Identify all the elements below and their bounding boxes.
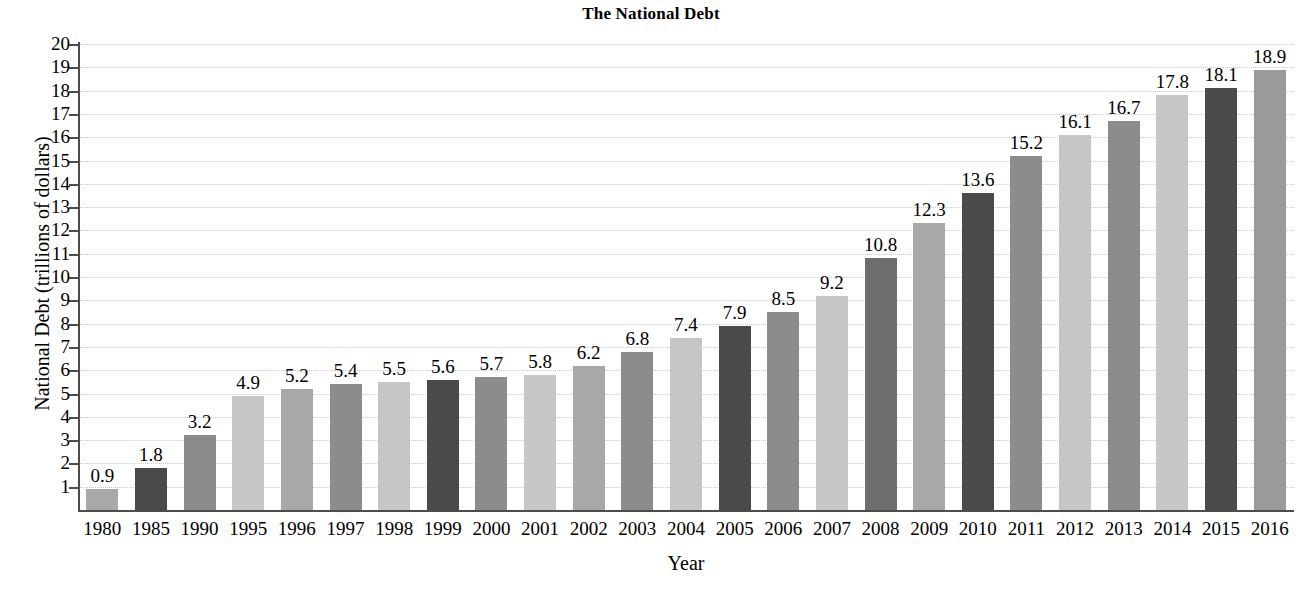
bar-value-label: 8.5 [759,289,808,308]
bar-value-label: 7.4 [662,315,711,334]
bar-value-label: 18.1 [1197,65,1246,84]
bar-value-label: 5.4 [321,361,370,380]
bar [865,258,897,510]
bar [1254,70,1286,510]
x-tick-label: 2013 [1099,519,1148,538]
x-tick-label: 1999 [418,519,467,538]
plot-area: 2019181716151413121110987654321 0.91.83.… [78,42,1294,512]
bar-value-label: 5.2 [273,366,322,385]
y-tick-label: 18 [30,81,70,100]
chart-title: The National Debt [0,4,1302,24]
x-tick-label: 1998 [370,519,419,538]
y-tick-label: 6 [30,360,70,379]
x-tick-label: 2002 [564,519,613,538]
y-tick-mark [69,324,78,326]
bar [86,489,118,510]
y-tick-label: 13 [30,197,70,216]
y-tick-mark [69,114,78,116]
bar [913,223,945,510]
bar-value-label: 7.9 [710,303,759,322]
y-tick-mark [69,347,78,349]
x-tick-label: 2004 [662,519,711,538]
bar-value-label: 16.7 [1099,98,1148,117]
y-tick-label: 1 [30,477,70,496]
x-tick-label: 2008 [856,519,905,538]
y-tick-label: 20 [30,34,70,53]
bar [232,396,264,510]
national-debt-bar-chart: The National Debt National Debt (trillio… [0,0,1302,592]
x-tick-label: 2011 [1002,519,1051,538]
y-tick-label: 5 [30,384,70,403]
x-tick-label: 1985 [127,519,176,538]
gridline [80,91,1294,92]
bar [1059,135,1091,510]
y-tick-mark [69,394,78,396]
bar [719,326,751,510]
y-tick-label: 8 [30,314,70,333]
y-tick-label: 16 [30,127,70,146]
bar-value-label: 10.8 [856,235,905,254]
y-tick-label: 19 [30,57,70,76]
x-tick-label: 1980 [78,519,127,538]
y-tick-mark [69,440,78,442]
y-tick-mark [69,370,78,372]
bar [670,338,702,510]
y-tick-label: 3 [30,430,70,449]
x-tick-label: 1995 [224,519,273,538]
bar [475,377,507,510]
y-tick-label: 7 [30,337,70,356]
bar-value-label: 12.3 [905,200,954,219]
bar [1205,88,1237,510]
bar [767,312,799,510]
y-tick-label: 12 [30,220,70,239]
bar [573,366,605,510]
bar-value-label: 15.2 [1002,133,1051,152]
x-tick-label: 1997 [321,519,370,538]
bar [281,389,313,510]
y-tick-mark [69,207,78,209]
bar [524,375,556,510]
y-tick-mark [69,300,78,302]
bar-value-label: 4.9 [224,373,273,392]
y-tick-label: 2 [30,453,70,472]
bar-value-label: 16.1 [1051,112,1100,131]
bar-value-label: 6.8 [613,329,662,348]
x-tick-label: 2001 [516,519,565,538]
bar-value-label: 5.8 [516,352,565,371]
bar-value-label: 17.8 [1148,72,1197,91]
x-tick-label: 2006 [759,519,808,538]
x-tick-label: 2009 [905,519,954,538]
bar [1010,156,1042,510]
y-tick-mark [69,161,78,163]
x-tick-label: 2016 [1245,519,1294,538]
y-tick-label: 14 [30,174,70,193]
bar [816,296,848,510]
y-tick-mark [69,184,78,186]
x-tick-label: 2014 [1148,519,1197,538]
x-tick-label: 1990 [175,519,224,538]
y-tick-mark [69,254,78,256]
bar-value-label: 1.8 [127,445,176,464]
bar-value-label: 9.2 [808,273,857,292]
y-tick-mark [69,277,78,279]
bar [378,382,410,510]
x-axis-line [78,510,1294,512]
bar [135,468,167,510]
bar-value-label: 13.6 [954,170,1003,189]
bar [1108,121,1140,510]
y-tick-label: 11 [30,244,70,263]
bar [621,352,653,510]
bar-value-label: 18.9 [1245,47,1294,66]
bar-value-label: 6.2 [564,343,613,362]
gridline [80,44,1294,45]
y-tick-mark [69,91,78,93]
y-tick-label: 10 [30,267,70,286]
y-tick-mark [69,463,78,465]
bar [427,380,459,510]
x-tick-label: 1996 [273,519,322,538]
bar [1156,95,1188,510]
y-tick-mark [69,230,78,232]
x-tick-label: 2007 [808,519,857,538]
bar [962,193,994,510]
y-tick-mark [69,417,78,419]
